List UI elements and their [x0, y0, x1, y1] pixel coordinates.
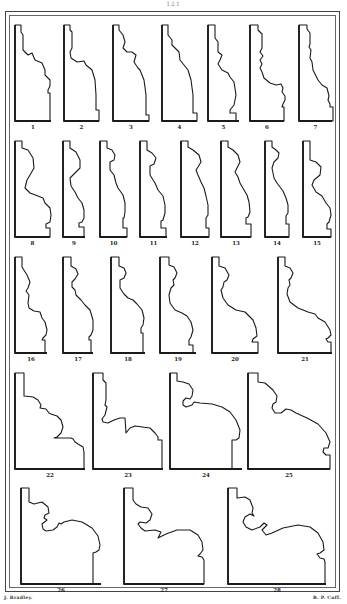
- molding-profile-23: [93, 373, 162, 469]
- profile-base-edge: [113, 25, 149, 121]
- figure-number: 26: [57, 587, 65, 593]
- figure-number: 5: [222, 124, 226, 130]
- profile-base-edge: [15, 373, 85, 469]
- profile-base-edge: [64, 25, 99, 121]
- molding-profile-21: [278, 257, 331, 353]
- figure-number: 21: [301, 356, 309, 362]
- figure-number: 25: [285, 472, 293, 478]
- profile-base-edge: [265, 141, 289, 237]
- profile-base-edge: [21, 488, 101, 584]
- molding-profile-20: [212, 257, 258, 353]
- molding-profile-4: [162, 25, 197, 121]
- figure-number: 23: [124, 472, 132, 478]
- molding-profile-6: [250, 25, 285, 121]
- profile-base-edge: [303, 141, 331, 237]
- profile-base-edge: [124, 488, 204, 584]
- figure-number: 27: [160, 587, 168, 593]
- molding-profile-22: [15, 373, 84, 469]
- profile-base-edge: [208, 25, 239, 121]
- figure-number: 18: [124, 356, 132, 362]
- figure-number: 24: [202, 472, 210, 478]
- figure-number: 2: [80, 124, 84, 130]
- figure-number: 9: [72, 240, 76, 246]
- molding-profile-10: [100, 141, 127, 237]
- profile-base-edge: [248, 373, 330, 469]
- molding-profile-28: [228, 488, 325, 584]
- profile-base-edge: [15, 25, 51, 121]
- molding-profile-1: [15, 25, 50, 121]
- molding-profile-11: [140, 141, 166, 237]
- artist-credit: R. P. Cuff.: [313, 595, 341, 600]
- profile-base-edge: [212, 257, 258, 353]
- figure-number: 17: [74, 356, 82, 362]
- figure-number: 4: [178, 124, 182, 130]
- profile-base-edge: [162, 25, 197, 121]
- molding-profile-9: [63, 141, 84, 237]
- figure-number: 11: [150, 240, 158, 246]
- figure-number: 12: [191, 240, 199, 246]
- molding-profile-19: [160, 257, 193, 353]
- figure-number: 7: [314, 124, 318, 130]
- molding-profile-24: [170, 373, 240, 469]
- molding-profile-16: [15, 257, 47, 353]
- figure-number: 19: [174, 356, 182, 362]
- profile-base-edge: [160, 257, 196, 353]
- profile-base-edge: [111, 257, 145, 353]
- molding-profile-7: [299, 25, 333, 121]
- figure-number: 15: [313, 240, 321, 246]
- figure-number: 3: [129, 124, 133, 130]
- figure-number: 20: [231, 356, 239, 362]
- molding-profiles-plate: [0, 0, 347, 604]
- profile-base-edge: [278, 257, 332, 353]
- molding-profile-3: [113, 25, 149, 121]
- profile-base-edge: [250, 25, 284, 121]
- molding-profile-14: [265, 141, 289, 237]
- molding-profile-25: [248, 373, 330, 469]
- engraver-credit: J. Bradley.: [4, 595, 33, 600]
- molding-profile-18: [111, 257, 144, 353]
- molding-profile-2: [64, 25, 99, 121]
- molding-profile-12: [181, 141, 209, 237]
- molding-profile-17: [63, 257, 93, 353]
- figure-number: 10: [110, 240, 118, 246]
- figure-number: 28: [273, 587, 281, 593]
- profile-base-edge: [299, 25, 332, 121]
- figure-number: 13: [232, 240, 240, 246]
- molding-profile-13: [221, 141, 251, 237]
- figure-number: 14: [273, 240, 281, 246]
- molding-profile-5: [208, 25, 236, 121]
- figure-number: 8: [31, 240, 35, 246]
- figure-number: 22: [46, 472, 54, 478]
- profile-base-edge: [93, 373, 163, 469]
- molding-profile-8: [15, 141, 51, 237]
- molding-profile-15: [303, 141, 331, 237]
- figure-number: 1: [31, 124, 35, 130]
- profile-base-edge: [15, 141, 50, 237]
- molding-profile-26: [21, 488, 100, 584]
- profile-base-edge: [228, 488, 326, 584]
- figure-number: 16: [27, 356, 35, 362]
- profile-base-edge: [170, 373, 242, 469]
- molding-profile-27: [124, 488, 204, 584]
- figure-number: 6: [265, 124, 269, 130]
